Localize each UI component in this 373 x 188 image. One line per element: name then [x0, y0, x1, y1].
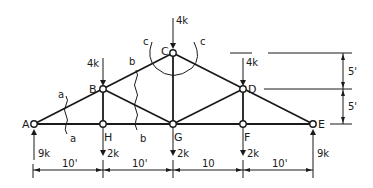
section-cut-a — [65, 96, 68, 134]
section-labels: a a b b c c — [58, 36, 206, 144]
member-BG — [103, 89, 173, 124]
truss-diagram: A B C D E F G H a a b b c c 4k 4k 4k 2k … — [0, 0, 373, 188]
node-B — [100, 86, 106, 92]
height-label-upper: 5' — [348, 66, 357, 77]
load-label-H: 2k — [107, 148, 119, 159]
span-dimensions: 10' 10' 10 10' — [33, 158, 313, 178]
arrowhead-H — [100, 150, 106, 156]
span-label-4: 10' — [272, 158, 287, 169]
node-F — [240, 121, 246, 127]
section-label-a-bottom: a — [70, 133, 76, 144]
load-label-B: 4k — [87, 58, 99, 69]
node-G — [170, 121, 176, 127]
node-D — [240, 86, 246, 92]
load-label-G: 2k — [177, 148, 189, 159]
node-label-A: A — [22, 118, 30, 131]
node-label-D: D — [248, 83, 256, 96]
section-label-b-bottom: b — [140, 133, 146, 144]
node-label-E: E — [318, 118, 325, 131]
section-label-c-left: c — [143, 36, 149, 47]
node-label-B: B — [89, 83, 97, 96]
arrowhead-B — [100, 80, 106, 86]
node-label-F: F — [244, 131, 250, 144]
load-label-F: 2k — [247, 148, 259, 159]
arrowhead-G — [170, 150, 176, 156]
span-label-1: 10' — [62, 158, 77, 169]
node-C — [170, 50, 176, 56]
node-H — [100, 121, 106, 127]
load-label-C: 4k — [176, 15, 188, 26]
node-A — [31, 121, 37, 127]
section-label-b-top: b — [129, 56, 135, 67]
node-label-C: C — [161, 45, 169, 58]
arrowhead-F — [240, 150, 246, 156]
reaction-label-E: 9k — [317, 148, 329, 159]
span-label-3: 10 — [202, 158, 215, 169]
arrowhead-reaction-E — [310, 129, 316, 135]
member-DG — [173, 89, 243, 124]
section-label-c-right: c — [200, 36, 206, 47]
height-label-lower: 5' — [348, 101, 357, 112]
span-label-2: 10' — [132, 158, 147, 169]
arrowhead-D — [240, 80, 246, 86]
section-label-a-top: a — [58, 89, 64, 100]
section-cut-b — [135, 70, 138, 130]
node-label-H: H — [104, 131, 112, 144]
load-label-D: 4k — [246, 57, 258, 68]
arrowhead-C — [170, 43, 176, 49]
node-E — [310, 121, 316, 127]
arrowhead-reaction-A — [31, 129, 37, 135]
node-label-G: G — [174, 131, 183, 144]
reaction-label-A: 9k — [38, 148, 50, 159]
